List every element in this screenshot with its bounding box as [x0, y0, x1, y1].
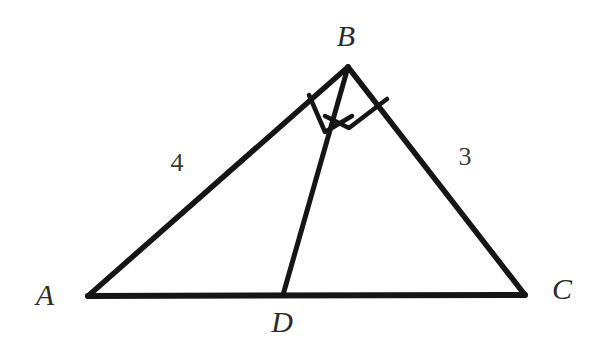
cevian-group: [283, 67, 348, 295]
vertex-label-D: D: [271, 307, 293, 337]
segment-BD: [283, 67, 348, 295]
side-length-label-AB: 4: [171, 150, 184, 176]
geometry-canvas: [0, 0, 598, 347]
side-length-label-BC: 3: [459, 144, 472, 170]
triangle-sides: [88, 67, 525, 296]
geometry-figure: A B C D 4 3: [0, 0, 598, 347]
vertex-label-B: B: [337, 21, 355, 51]
vertex-label-C: C: [552, 274, 572, 304]
side-BC: [348, 67, 525, 295]
vertex-label-A: A: [36, 280, 54, 310]
side-AB: [88, 67, 348, 296]
side-AC: [88, 295, 525, 296]
